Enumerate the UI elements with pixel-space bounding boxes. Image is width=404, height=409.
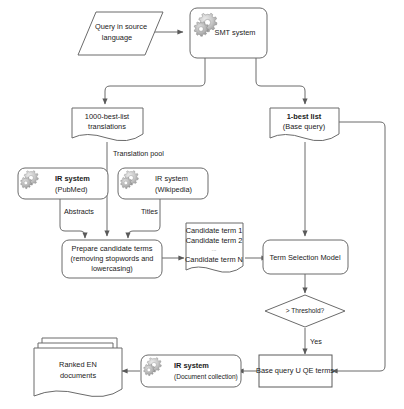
ir-documents-line1: IR system <box>174 361 209 370</box>
ir-pubmed-line1: IR system <box>55 174 90 183</box>
smt-system-label: SMT system <box>215 28 256 37</box>
edge-wikipedia-titles <box>128 198 160 238</box>
candidate-term-1: Candidate term 1 <box>186 226 243 235</box>
ir-wikipedia-line2: (Wikipedia) <box>155 185 192 194</box>
edge-label-translation-pool: Translation pool <box>113 149 164 158</box>
prepare-terms-line1: Prepare candidate terms <box>72 244 153 253</box>
candidate-term-2: Candidate term 2 <box>186 236 243 245</box>
node-smt-system[interactable]: SMT system <box>190 8 267 58</box>
ir-pubmed-line2: (PubMed) <box>55 185 87 194</box>
query-source-line2: language <box>102 33 132 42</box>
node-prepare-terms[interactable]: Prepare candidate terms (removing stopwo… <box>62 240 162 278</box>
node-threshold-decision[interactable]: > Threshold? <box>265 295 345 327</box>
base-query-label: Base query U QE terms <box>256 366 334 375</box>
node-base-query-union[interactable]: Base query U QE terms <box>256 355 334 387</box>
one-best-line1: 1-best list <box>287 112 322 121</box>
prepare-terms-line2: (removing stopwords and <box>71 254 154 263</box>
edge-smt-to-1000best <box>105 58 205 104</box>
node-ir-pubmed[interactable]: IR system (PubMed) <box>18 168 108 199</box>
node-one-best-list[interactable]: 1-best list (Base query) <box>270 108 339 141</box>
term-selection-label: Term Selection Model <box>269 253 340 262</box>
node-thousand-best-list[interactable]: 1000-best-list translations <box>72 108 143 141</box>
candidate-terms-ellipsis: ... <box>211 246 216 252</box>
candidate-term-n: Candidate term N <box>185 255 243 264</box>
edge-label-abstracts: Abstracts <box>64 207 94 216</box>
thousand-best-line2: translations <box>88 122 126 131</box>
node-candidate-terms[interactable]: Candidate term 1 Candidate term 2 ... Ca… <box>185 223 243 272</box>
flowchart-canvas: Query in source language SMT system 1000… <box>0 0 404 409</box>
prepare-terms-line3: lowercasing) <box>91 264 133 273</box>
ranked-documents-line2: documents <box>60 371 96 380</box>
ir-wikipedia-line1: IR system <box>155 174 188 183</box>
ranked-documents-line1: Ranked EN <box>59 360 97 369</box>
edge-label-titles: Titles <box>141 207 158 216</box>
node-ranked-documents[interactable]: Ranked EN documents <box>34 338 122 397</box>
query-source-line1: Query in source <box>95 22 147 31</box>
edge-pubmed-abstracts <box>60 198 85 238</box>
edge-label-yes: Yes <box>310 337 322 346</box>
node-term-selection-model[interactable]: Term Selection Model <box>263 240 348 274</box>
thousand-best-line1: 1000-best-list <box>85 112 129 121</box>
flowchart-svg: Query in source language SMT system 1000… <box>0 0 404 409</box>
ir-documents-line2: (Document collection) <box>174 373 238 381</box>
node-ir-wikipedia[interactable]: IR system (Wikipedia) <box>118 168 208 199</box>
edge-smt-to-1best <box>256 58 305 104</box>
node-query-source[interactable]: Query in source language <box>78 12 163 55</box>
threshold-label: > Threshold? <box>286 307 325 314</box>
connector-layer <box>60 32 385 371</box>
one-best-line2: (Base query) <box>283 122 325 131</box>
node-ir-document-collection[interactable]: IR system (Document collection) <box>141 355 241 387</box>
